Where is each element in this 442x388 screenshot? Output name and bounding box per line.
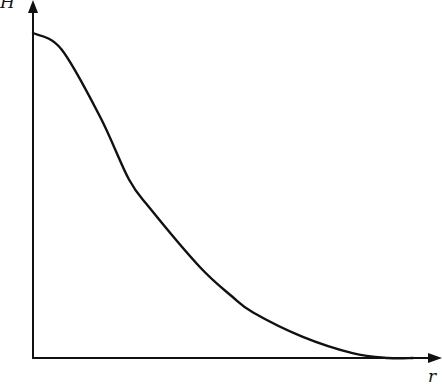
y-axis-label: H	[0, 0, 15, 12]
x-axis-label: r	[428, 366, 436, 386]
data-curve	[33, 33, 413, 358]
chart-plot	[0, 0, 442, 388]
x-axis-arrow-icon	[428, 353, 442, 363]
y-axis-arrow-icon	[28, 0, 38, 13]
